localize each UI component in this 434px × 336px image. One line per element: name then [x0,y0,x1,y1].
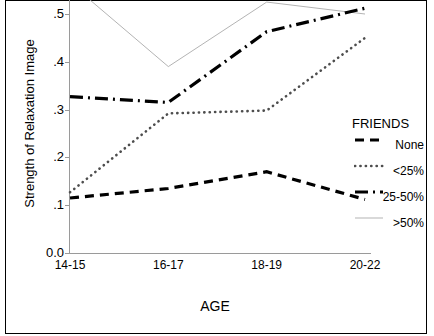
series-line--50- [70,0,365,67]
series-line--25- [70,38,365,192]
plot-area [70,0,370,253]
series-line-none [70,172,365,200]
chart-figure: Strength of Relaxation Image AGE 0.0.1.2… [0,0,434,336]
legend-label: None [352,138,424,152]
y-tick: 0.0 [0,245,64,259]
legend: FRIENDS None<25%25-50%>50% [352,116,424,248]
y-tick-label: .5 [20,6,64,21]
y-tick: .4 [0,54,64,68]
x-tick-label: 18-19 [232,258,302,272]
y-tick: .5 [0,6,64,20]
legend-item[interactable]: <25% [352,156,424,182]
y-tick-label: .3 [20,102,64,117]
y-tick-label: .2 [20,149,64,164]
x-axis-title: AGE [60,298,370,314]
legend-item[interactable]: None [352,130,424,156]
legend-item[interactable]: 25-50% [352,182,424,208]
y-tick: .3 [0,102,64,116]
y-tick: .1 [0,197,64,211]
x-tick-label: 14-15 [35,258,105,272]
legend-label: <25% [352,164,424,178]
x-tick-label: 16-17 [133,258,203,272]
legend-label: 25-50% [352,190,424,204]
legend-item[interactable]: >50% [352,208,424,234]
x-axis-line [69,253,371,254]
dotted-swatch [354,156,384,164]
series-line-25-50- [70,8,365,102]
y-tick-label: .4 [20,54,64,69]
legend-label: >50% [352,216,424,230]
thin-solid-swatch [354,208,384,216]
legend-title: FRIENDS [352,116,424,131]
x-tick-label: 20-22 [330,258,400,272]
y-tick-label: .1 [20,197,64,212]
series-lines [70,0,370,253]
y-tick: .2 [0,149,64,163]
dash-dot-swatch [354,182,384,190]
dashed-swatch [354,130,384,138]
